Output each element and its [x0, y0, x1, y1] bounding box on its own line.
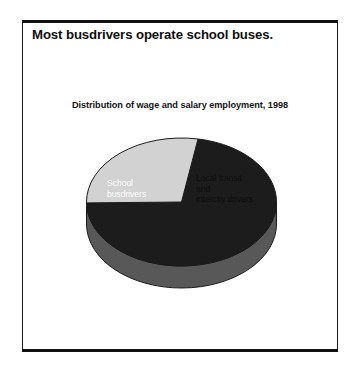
frame-top-rule	[22, 20, 338, 23]
pie-chart-svg	[80, 118, 285, 298]
pie-slice-label-local-transit: Local transit and intercity drivers	[196, 173, 282, 205]
page-title: Most busdrivers operate school buses.	[32, 27, 328, 43]
frame-bottom-rule	[22, 349, 338, 352]
pie-slice-label-school-busdrivers: School busdrivers	[107, 178, 187, 199]
figure-container: Most busdrivers operate school buses. Di…	[0, 0, 362, 375]
pie-chart	[80, 118, 285, 298]
chart-title: Distribution of wage and salary employme…	[22, 99, 338, 111]
